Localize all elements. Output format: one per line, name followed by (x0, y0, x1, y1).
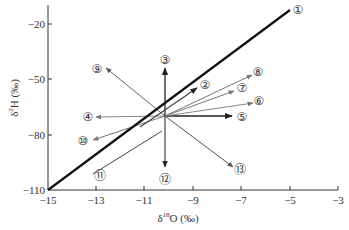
x-tick-label: −5 (284, 194, 296, 206)
x-tick-label: −15 (39, 194, 57, 206)
x-axis-title: δ18O (‰) (157, 211, 199, 225)
y-axis-title: δ2H (‰) (7, 79, 21, 117)
isotope-vector-chart: −20 −50 −80 −110 −15 −13 −11 −9 −7 −5 −3… (0, 0, 349, 230)
label-5: ⑤ (237, 110, 248, 124)
x-tick-label: −7 (235, 194, 247, 206)
label-8: ⑧ (253, 65, 264, 79)
label-11: ⑪ (94, 169, 106, 183)
label-13: ⑬ (234, 163, 246, 177)
vector-13 (165, 116, 233, 167)
label-3: ③ (160, 53, 171, 67)
label-10: ⑩ (78, 134, 89, 148)
label-9: ⑨ (92, 62, 103, 76)
x-tick-label: −11 (136, 194, 153, 206)
y-tick-label: −20 (28, 18, 46, 30)
x-tick-label: −13 (87, 194, 105, 206)
x-ticks: −15 −13 −11 −9 −7 −5 −3 (39, 186, 344, 206)
y-tick-label: −80 (28, 129, 46, 141)
label-1: ① (293, 3, 304, 17)
label-2: ② (200, 78, 211, 92)
label-6: ⑥ (254, 94, 265, 108)
x-tick-label: −3 (332, 194, 344, 206)
vector-labels: ① ② ③ ④ ⑤ ⑥ ⑦ ⑧ ⑨ ⑩ ⑪ ⑫ ⑬ (78, 3, 304, 187)
label-12: ⑫ (159, 173, 171, 187)
label-4: ④ (83, 110, 94, 124)
x-tick-label: −9 (187, 194, 199, 206)
label-7: ⑦ (237, 81, 248, 95)
axes: −20 −50 −80 −110 −15 −13 −11 −9 −7 −5 −3… (7, 5, 344, 225)
segment-11 (93, 131, 162, 174)
y-tick-label: −50 (28, 73, 46, 85)
